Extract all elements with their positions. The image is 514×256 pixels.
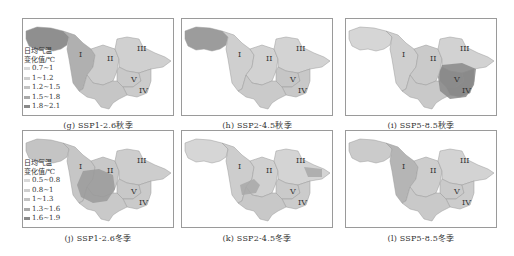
yangtze-basin-map: IIIIIIIVV	[182, 131, 332, 227]
yangtze-basin-map: IIIIIIIVV	[346, 131, 496, 227]
legend-unit: 变化值/℃	[24, 56, 60, 65]
legend-swatch	[24, 189, 30, 192]
map-panel-k: IIIIIIIVV	[181, 130, 333, 228]
legend-unit: 变化值/℃	[24, 168, 60, 177]
legend-label: 1.3~1.6	[32, 205, 60, 215]
map-panel-i: IIIIIIIVV	[345, 18, 497, 116]
region-label-ii: II	[266, 54, 272, 63]
region-label-v: V	[130, 75, 137, 84]
caption-j: (j) SSP1-2.6冬季	[18, 232, 178, 243]
region-III	[115, 37, 171, 73]
region-label-ii: II	[107, 54, 113, 63]
region-label-iv: IV	[139, 86, 148, 95]
map-panel-h: IIIIIIIVV	[181, 18, 333, 116]
region-III	[274, 37, 330, 73]
caption-h: (h) SSP2-4.5秋季	[177, 119, 337, 130]
region-label-iii: III	[137, 44, 146, 53]
region-label-iii: III	[137, 156, 146, 165]
legend-item: 1.3~1.6	[24, 205, 60, 215]
region-west	[349, 27, 392, 51]
legend-label: 1.5~1.8	[32, 93, 60, 103]
legend-label: 1.2~1.5	[32, 83, 60, 93]
region-west	[185, 139, 228, 163]
legend-title: 日均气温	[24, 47, 60, 56]
region-west	[349, 139, 392, 163]
region-label-iii: III	[460, 156, 469, 165]
map-panel-l: IIIIIIIVV	[345, 130, 497, 228]
region-label-v: V	[130, 187, 137, 196]
region-label-ii: II	[430, 166, 436, 175]
region-label-iii: III	[296, 156, 305, 165]
legend-label: 0.8~1	[32, 186, 53, 196]
legend-item: 1~1.2	[24, 74, 60, 84]
legend-swatch	[24, 77, 30, 80]
region-label-iv: IV	[139, 198, 148, 207]
region-west	[185, 27, 228, 51]
region-label-i: I	[402, 50, 405, 59]
region-label-v: V	[289, 187, 296, 196]
caption-k: (k) SSP2-4.5冬季	[177, 232, 337, 243]
legend-item: 1~1.3	[24, 195, 60, 205]
region-III	[274, 149, 330, 185]
legend-item: 0.7~1	[24, 64, 60, 74]
legend-label: 1.6~1.9	[32, 214, 60, 224]
region-label-i: I	[79, 162, 82, 171]
legend-label: 1~1.3	[32, 195, 53, 205]
yangtze-basin-map: IIIIIIIVV	[182, 19, 332, 115]
region-label-v: V	[453, 187, 460, 196]
legend-swatch	[24, 208, 30, 211]
region-label-v: V	[453, 75, 460, 84]
legend-label: 0.5~0.8	[32, 176, 60, 186]
region-label-i: I	[238, 50, 241, 59]
region-III	[115, 149, 171, 185]
region-label-iv: IV	[298, 198, 307, 207]
legend-swatch	[24, 179, 30, 182]
legend-item: 1.5~1.8	[24, 93, 60, 103]
legend-item: 0.5~0.8	[24, 176, 60, 186]
region-label-iii: III	[296, 44, 305, 53]
legend-swatch	[24, 217, 30, 220]
legend-label: 1.8~2.1	[32, 102, 60, 112]
caption-i: (i) SSP5-8.5秋季	[341, 119, 501, 130]
legend-item: 1.6~1.9	[24, 214, 60, 224]
map-panel-g: IIIIIIIVV日均气温变化值/℃0.7~11~1.21.2~1.51.5~1…	[22, 18, 174, 116]
region-label-i: I	[402, 162, 405, 171]
map-panel-j: IIIIIIIVV日均气温变化值/℃0.5~0.80.8~11~1.31.3~1…	[22, 130, 174, 228]
region-label-iii: III	[460, 44, 469, 53]
legend-label: 1~1.2	[32, 74, 53, 84]
legend-swatch	[24, 105, 30, 108]
legend-item: 1.8~2.1	[24, 102, 60, 112]
legend-swatch	[24, 67, 30, 70]
region-label-i: I	[238, 162, 241, 171]
region-label-v: V	[289, 75, 296, 84]
legend-swatch	[24, 86, 30, 89]
caption-g: (g) SSP1-2.6秋季	[18, 119, 178, 130]
region-label-ii: II	[266, 166, 272, 175]
region-label-iv: IV	[462, 198, 471, 207]
caption-l: (l) SSP5-8.5冬季	[341, 232, 501, 243]
yangtze-basin-map: IIIIIIIVV	[346, 19, 496, 115]
region-label-iv: IV	[298, 86, 307, 95]
legend-item: 0.8~1	[24, 186, 60, 196]
region-label-i: I	[79, 50, 82, 59]
legend-item: 1.2~1.5	[24, 83, 60, 93]
legend-winter: 日均气温变化值/℃0.5~0.80.8~11~1.31.3~1.61.6~1.9	[24, 159, 60, 224]
region-label-ii: II	[430, 54, 436, 63]
region-label-ii: II	[107, 166, 113, 175]
legend-title: 日均气温	[24, 159, 60, 168]
legend-autumn: 日均气温变化值/℃0.7~11~1.21.2~1.51.5~1.81.8~2.1	[24, 47, 60, 112]
legend-label: 0.7~1	[32, 64, 53, 74]
legend-swatch	[24, 198, 30, 201]
region-label-iv: IV	[462, 86, 471, 95]
region-III	[438, 149, 494, 185]
legend-swatch	[24, 96, 30, 99]
